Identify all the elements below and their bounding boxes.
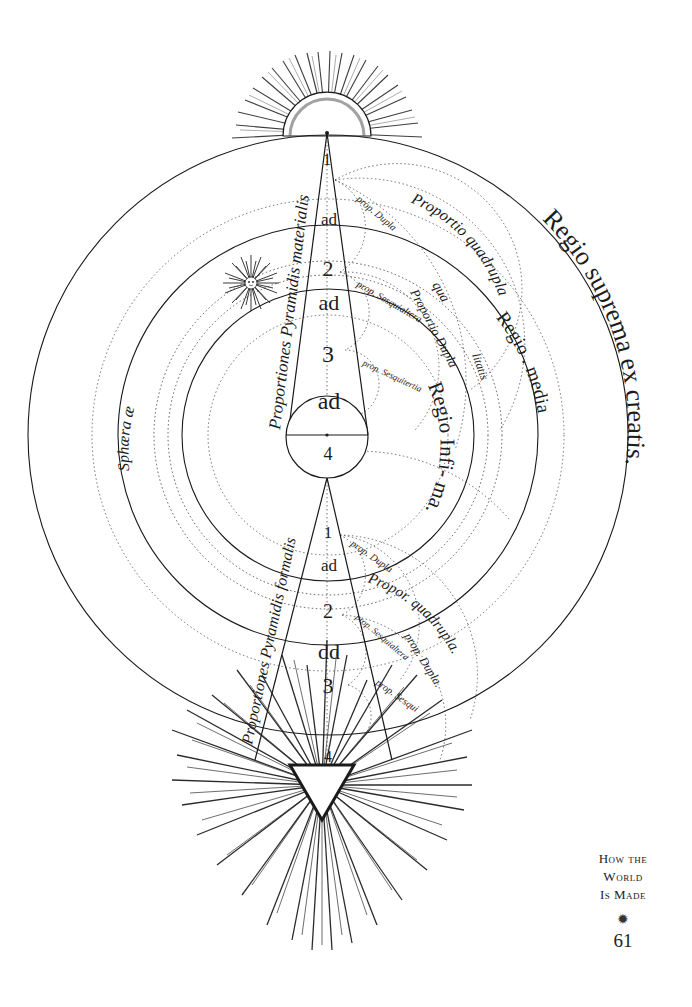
qua-label: qua — [429, 279, 452, 305]
svg-text:ad: ad — [321, 210, 338, 229]
lower-pyramid-levels: 1 ad 2 dd 3 4 — [318, 523, 340, 765]
prop-sesquitertia-upper: prop. Sesquitertia — [360, 357, 424, 394]
svg-text:1: 1 — [324, 523, 333, 542]
sphere-label: Sphæra æ — [114, 404, 137, 472]
proportio-dupla-upper: Proportio Dupla — [407, 285, 462, 370]
top-sun-icon — [232, 51, 422, 138]
caption-line-1: How the — [568, 850, 678, 868]
litatis-label: litatis — [469, 351, 492, 382]
star-ornament-icon: ✹ — [568, 912, 678, 928]
region-infima-label: Regio Infi- ma. — [421, 378, 460, 518]
page-caption: How the World Is Made ✹ 61 — [568, 850, 678, 952]
caption-line-3: Is Made — [568, 886, 678, 904]
svg-text:4: 4 — [324, 444, 333, 464]
svg-text:2: 2 — [323, 256, 334, 281]
svg-text:ad: ad — [321, 556, 338, 575]
star-sun-icon — [223, 255, 279, 311]
svg-text:ad: ad — [318, 388, 341, 414]
upper-pyramid-label: Proportiones Pyramidis materialis — [265, 193, 313, 431]
prop-dupla-upper: prop. Dupla — [354, 192, 399, 232]
page-number: 61 — [568, 930, 678, 952]
svg-text:2: 2 — [323, 600, 333, 622]
svg-text:3: 3 — [322, 341, 334, 367]
region-suprema-label: Regio suprema ex creatis. — [537, 203, 651, 467]
svg-text:ad: ad — [319, 290, 340, 315]
prop-dupla-lower: prop. Dupla. — [401, 629, 446, 689]
proportio-quadrupla-upper: Proportio quadrupla — [408, 189, 512, 298]
caption-line-2: World — [568, 868, 678, 886]
svg-text:1: 1 — [323, 150, 332, 169]
